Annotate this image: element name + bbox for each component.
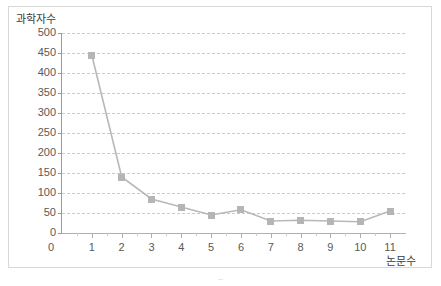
x-axis-line — [61, 233, 406, 234]
chart-figure: 과학자수 논문수 500450400350300250200150100500 … — [0, 0, 441, 286]
gridline — [62, 153, 405, 154]
data-point-marker — [208, 212, 215, 219]
data-point-marker — [148, 196, 155, 203]
x-axis-minor-tick — [77, 233, 78, 236]
x-axis-tick-label: 5 — [198, 241, 224, 253]
gridline — [62, 93, 405, 94]
y-axis-tick-label: 150 — [22, 167, 56, 178]
y-axis-tick-mark — [58, 73, 62, 74]
data-point-marker — [357, 218, 364, 225]
x-axis-tick-mark — [181, 233, 182, 238]
y-axis-tick-mark — [58, 113, 62, 114]
x-axis-minor-tick — [107, 233, 108, 236]
gridline — [62, 73, 405, 74]
y-axis-tick-mark — [58, 33, 62, 34]
figure-caption: – — [0, 274, 441, 286]
gridline — [62, 133, 405, 134]
x-axis-tick-label: 11 — [377, 241, 403, 253]
x-axis-minor-tick — [256, 233, 257, 236]
x-axis-tick-label: 4 — [168, 241, 194, 253]
y-axis-tick-mark — [58, 53, 62, 54]
x-axis-tick-mark — [360, 233, 361, 238]
x-axis-tick-label: 9 — [317, 241, 343, 253]
y-axis-tick-label: 500 — [22, 27, 56, 38]
y-axis-tick-label: 400 — [22, 67, 56, 78]
y-axis-tick-label: 300 — [22, 107, 56, 118]
x-axis-tick-label: 6 — [228, 241, 254, 253]
x-axis-tick-mark — [390, 233, 391, 238]
y-axis-tick-label: 100 — [22, 187, 56, 198]
gridline — [62, 53, 405, 54]
y-axis-tick-label: 350 — [22, 87, 56, 98]
data-point-marker — [387, 208, 394, 215]
gridline — [62, 213, 405, 214]
y-axis-tick-mark — [58, 153, 62, 154]
x-axis-tick-mark — [151, 233, 152, 238]
y-axis-tick-label: 250 — [22, 127, 56, 138]
x-axis-minor-tick — [166, 233, 167, 236]
data-point-marker — [237, 206, 244, 213]
gridline — [62, 173, 405, 174]
x-axis-tick-label: 10 — [347, 241, 373, 253]
y-axis-tick-mark — [58, 193, 62, 194]
y-axis-tick-label: 450 — [22, 47, 56, 58]
x-axis-tick-mark — [92, 233, 93, 238]
x-axis-minor-tick — [286, 233, 287, 236]
x-axis-minor-tick — [316, 233, 317, 236]
x-axis-tick-mark — [301, 233, 302, 238]
y-axis-title: 과학자수 — [16, 10, 56, 26]
gridline — [62, 113, 405, 114]
plot-area — [62, 33, 405, 233]
y-axis-tick-mark — [58, 93, 62, 94]
x-axis-tick-label: 7 — [258, 241, 284, 253]
x-axis-tick-mark — [122, 233, 123, 238]
x-axis-tick-mark — [330, 233, 331, 238]
x-axis-tick-label: 1 — [79, 241, 105, 253]
x-axis-tick-mark — [271, 233, 272, 238]
y-axis-tick-mark — [58, 173, 62, 174]
data-point-marker — [178, 204, 185, 211]
y-axis-tick-label: 50 — [22, 207, 56, 218]
data-point-marker — [118, 174, 125, 181]
x-axis-minor-tick — [196, 233, 197, 236]
y-axis-tick-mark — [58, 213, 62, 214]
y-axis-tick-mark — [58, 233, 62, 234]
x-axis-tick-label: 2 — [109, 241, 135, 253]
x-axis-title: 논문수 — [386, 252, 416, 268]
gridline — [62, 193, 405, 194]
data-point-marker — [88, 52, 95, 59]
y-axis-tick-mark — [58, 133, 62, 134]
data-point-marker — [327, 218, 334, 225]
x-axis-tick-mark — [211, 233, 212, 238]
x-axis-tick-label: 3 — [138, 241, 164, 253]
gridline — [62, 33, 405, 34]
x-axis-origin-label: 0 — [38, 241, 64, 253]
x-axis-tick-label: 8 — [288, 241, 314, 253]
x-axis-minor-tick — [226, 233, 227, 236]
x-axis-minor-tick — [137, 233, 138, 236]
x-axis-tick-mark — [241, 233, 242, 238]
x-axis-minor-tick — [375, 233, 376, 236]
y-axis-tick-label: 0 — [22, 227, 56, 238]
data-point-marker — [267, 218, 274, 225]
data-point-marker — [297, 217, 304, 224]
x-axis-minor-tick — [345, 233, 346, 236]
y-axis-tick-label: 200 — [22, 147, 56, 158]
